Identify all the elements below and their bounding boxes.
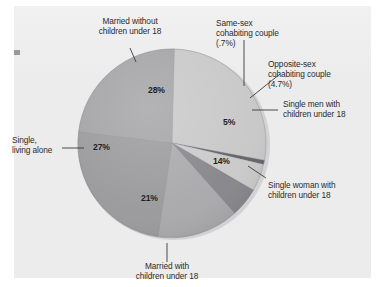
- value-married-without-children: 28%: [148, 85, 165, 95]
- label-same-sex-cohabiting: Same-sex cohabiting couple (.7%): [216, 18, 336, 49]
- value-single-woman-with-children: 14%: [213, 156, 230, 166]
- label-married-without-children: Married without children under 18: [75, 16, 185, 36]
- value-married-with-children: 21%: [141, 193, 158, 203]
- label-single-woman-with-children: Single woman with children under 18: [268, 180, 378, 200]
- value-single-men-with-children: 5%: [223, 117, 235, 127]
- label-opposite-sex-cohabiting: Opposite-sex cohabiting couple (4.7%): [268, 59, 379, 90]
- label-married-with-children: Married with children under 18: [112, 261, 222, 281]
- value-single-living-alone: 27%: [93, 142, 110, 152]
- label-single-living-alone: Single, living alone: [12, 135, 62, 155]
- label-single-men-with-children: Single men with children under 18: [283, 99, 379, 119]
